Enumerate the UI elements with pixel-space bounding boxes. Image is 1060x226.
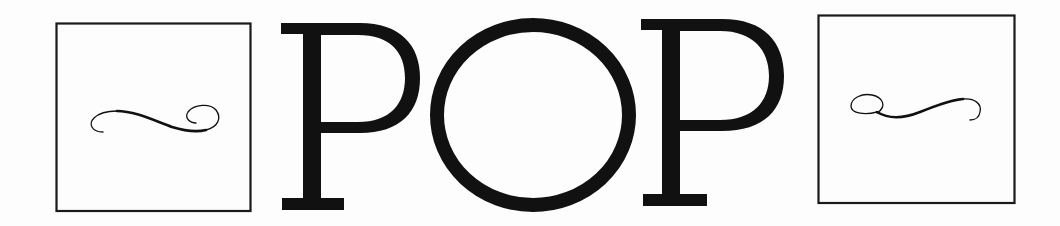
flourish-swash-icon-mirrored: [851, 95, 980, 120]
right-ornament: [819, 16, 1015, 204]
flourish-swash-icon: [91, 105, 219, 132]
left-ornament: [57, 24, 251, 212]
letter-p-2: [641, 19, 784, 206]
right-square-frame: [819, 16, 1015, 204]
letter-o: [437, 25, 629, 205]
left-square-frame: [57, 24, 251, 212]
letter-p-1: [281, 23, 420, 210]
